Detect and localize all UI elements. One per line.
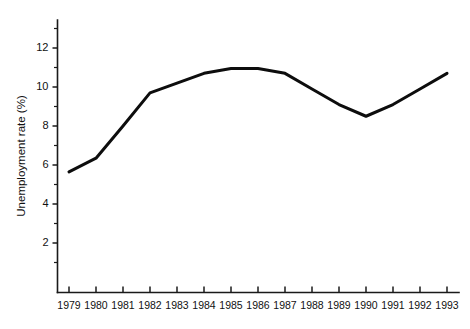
x-axis-tick-label: 1981 [111,299,135,311]
x-axis-tick-labels: 1979198019811982198319841985198619871988… [57,299,459,311]
x-axis-ticks [69,287,447,293]
x-axis-tick-label: 1983 [165,299,189,311]
y-axis-tick-label: 4 [42,197,48,209]
y-axis-tick-label: 12 [36,41,48,53]
x-axis-tick-label: 1991 [381,299,405,311]
x-axis-tick-label: 1992 [408,299,432,311]
chart-canvas: 24681012 1979198019811982198319841985198… [0,0,470,329]
y-axis-tick-label: 8 [42,119,48,131]
x-axis-tick-label: 1988 [300,299,324,311]
unemployment-rate-line-chart: 24681012 1979198019811982198319841985198… [0,0,470,329]
x-axis-tick-label: 1980 [84,299,108,311]
x-axis-tick-label: 1984 [192,299,216,311]
x-axis-tick-label: 1985 [219,299,243,311]
x-axis-tick-label: 1993 [435,299,459,311]
x-axis-tick-label: 1979 [57,299,81,311]
x-axis-tick-label: 1987 [273,299,297,311]
x-axis-tick-label: 1982 [138,299,162,311]
chart-axes [58,20,460,293]
y-axis-tick-labels: 24681012 [36,41,48,248]
x-axis-tick-label: 1989 [327,299,351,311]
x-axis-tick-label: 1990 [354,299,378,311]
y-axis-title: Unemployment rate (%) [15,95,27,217]
x-axis-tick-label: 1986 [246,299,270,311]
data-series-line [69,68,447,171]
y-axis-tick-label: 6 [42,158,48,170]
y-axis-tick-label: 2 [42,236,48,248]
y-axis-tick-label: 10 [36,80,48,92]
